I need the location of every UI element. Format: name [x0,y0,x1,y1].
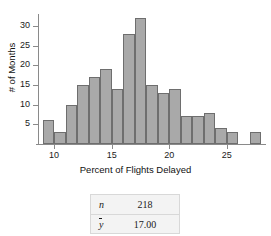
x-axis-tick-label: 25 [215,150,239,161]
stat-value-ybar: 17.00 [119,219,179,230]
histogram-bar [100,69,112,144]
y-axis-title: # of Months [6,28,17,108]
table-row: y 17.00 [91,214,179,233]
histogram-bar [158,93,170,144]
x-axis-tick [227,144,228,149]
stat-value-n: 218 [119,199,179,210]
histogram-bar [43,120,55,144]
histogram-bar [204,113,216,145]
x-axis-tick-label: 20 [157,150,181,161]
summary-statistics-table: n 218 y 17.00 [90,194,180,234]
histogram-bar [123,34,135,144]
x-axis-tick [169,144,170,149]
table-row: n 218 [91,195,179,214]
histogram-bars [38,14,266,144]
x-axis-title: Percent of Flights Delayed [0,164,271,175]
x-axis-tick-label: 15 [100,150,124,161]
histogram-bar [54,132,66,144]
stat-symbol-n: n [91,199,119,210]
histogram-bar [77,85,89,144]
stat-symbol-ybar: y [91,219,119,230]
x-axis-tick [112,144,113,149]
histogram-bar [215,128,227,144]
histogram-bar [192,116,204,144]
histogram-bar [66,105,78,144]
histogram-bar [112,89,124,144]
histogram-bar [146,85,158,144]
y-bar-glyph: y [99,219,103,230]
x-axis-tick-label: 10 [42,150,66,161]
x-axis-tick [54,144,55,149]
y-axis-tick-label: 5 [0,118,30,129]
histogram-bar [89,77,101,144]
x-axis-line [36,144,266,145]
histogram-bar [169,89,181,144]
histogram-chart: 51015202530 10152025 # of Months Percent… [0,0,271,186]
histogram-bar [250,132,262,144]
histogram-bar [181,116,193,144]
histogram-bar [227,132,239,144]
histogram-bar [135,18,147,144]
